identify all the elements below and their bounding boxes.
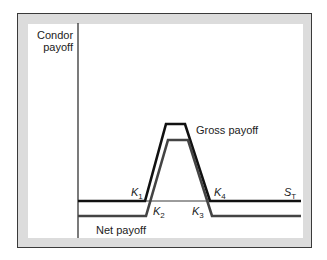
- strike-k4-label: K4: [214, 186, 226, 203]
- net-payoff-line: [78, 140, 301, 216]
- net-payoff-label: Net payoff: [96, 224, 146, 236]
- strike-k3-label: K3: [192, 205, 204, 222]
- x-axis-label: ST: [284, 186, 296, 203]
- strike-k2-label: K2: [153, 205, 165, 222]
- gross-payoff-line: [78, 124, 301, 201]
- y-axis-label: Condor payoff: [37, 29, 73, 53]
- gross-payoff-label: Gross payoff: [196, 124, 258, 136]
- strike-k1-label: K1: [131, 186, 143, 203]
